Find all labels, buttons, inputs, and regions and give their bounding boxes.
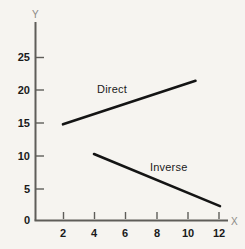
line-chart-figure: Y X 25 20 15 10 5 0 2 4 6 8 10 12 Direct… xyxy=(0,0,245,249)
series-line-direct xyxy=(63,81,196,125)
x-tick-label-8: 8 xyxy=(154,228,160,239)
y-tick-label-5: 5 xyxy=(2,184,30,195)
x-axis-label: X xyxy=(231,217,238,227)
y-tick-label-25: 25 xyxy=(2,52,30,63)
series-annotation-inverse: Inverse xyxy=(150,162,187,173)
x-tick-label-12: 12 xyxy=(213,228,225,239)
x-tick-label-2: 2 xyxy=(60,228,66,239)
plot-area xyxy=(0,0,245,249)
x-tick-label-6: 6 xyxy=(122,228,128,239)
x-tick-label-10: 10 xyxy=(182,228,194,239)
x-tick-label-4: 4 xyxy=(91,228,97,239)
series-annotation-direct: Direct xyxy=(97,84,127,95)
y-tick-label-10: 10 xyxy=(2,151,30,162)
y-axis-ticks xyxy=(36,58,44,190)
y-tick-label-20: 20 xyxy=(2,85,30,96)
x-axis-ticks xyxy=(64,212,220,219)
y-tick-label-15: 15 xyxy=(2,118,30,129)
y-tick-label-0: 0 xyxy=(2,215,30,226)
y-axis-label: Y xyxy=(32,10,39,20)
